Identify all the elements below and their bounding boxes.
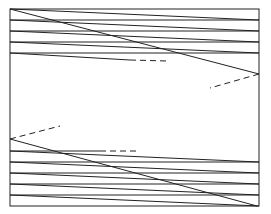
diagram-frame bbox=[10, 9, 259, 206]
bottom-dashed-continuations bbox=[10, 126, 139, 151]
top-winding-lines bbox=[10, 9, 259, 74]
bottom-winding-lines bbox=[10, 139, 259, 206]
dashed-continuation-line bbox=[130, 60, 167, 61]
slanted-winding-line bbox=[10, 184, 259, 195]
slanted-winding-line bbox=[10, 173, 259, 184]
partial-winding-line bbox=[10, 53, 130, 60]
dashed-entry-line bbox=[10, 126, 60, 139]
slanted-winding-line bbox=[10, 31, 259, 42]
slanted-winding-line bbox=[10, 162, 259, 173]
slanted-winding-line bbox=[10, 151, 259, 162]
top-dashed-continuations bbox=[130, 60, 259, 88]
dashed-exit-line bbox=[210, 74, 259, 88]
slanted-winding-line bbox=[10, 20, 259, 31]
slanted-winding-line bbox=[10, 42, 259, 53]
helix-winding-diagram bbox=[0, 0, 271, 214]
